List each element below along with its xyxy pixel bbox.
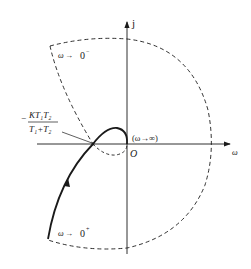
origin-label: O bbox=[130, 148, 137, 159]
left-arc-dashed bbox=[50, 46, 93, 144]
svg-text:T₁+T₂: T₁+T₂ bbox=[29, 124, 51, 134]
nyquist-diagram: j ω O (ω→∞) ω → 0 − ω → 0 + − KT₁T₂ T₁+T… bbox=[0, 0, 251, 269]
nyquist-curve-solid bbox=[48, 128, 127, 239]
real-axis-label: ω bbox=[232, 148, 238, 157]
crossing-point bbox=[92, 143, 95, 146]
imag-axis-label: j bbox=[131, 17, 135, 29]
svg-text:→: → bbox=[65, 229, 73, 238]
svg-text:0: 0 bbox=[80, 50, 85, 61]
omega-infinity-label: (ω→∞) bbox=[132, 133, 158, 143]
svg-text:ω: ω bbox=[58, 229, 64, 238]
svg-text:0: 0 bbox=[80, 228, 85, 239]
nyquist-curve-dashed bbox=[93, 144, 127, 155]
svg-text:+: + bbox=[86, 226, 90, 232]
omega-zero-plus-label: ω → 0 + bbox=[58, 226, 90, 239]
svg-text:ω: ω bbox=[58, 51, 64, 60]
omega-zero-minus-label: ω → 0 − bbox=[58, 48, 90, 61]
svg-text:→: → bbox=[65, 51, 73, 60]
svg-text:−: − bbox=[21, 113, 26, 123]
svg-text:−: − bbox=[86, 48, 90, 54]
svg-text:KT₁T₂: KT₁T₂ bbox=[28, 110, 51, 120]
crossing-leader-line bbox=[62, 132, 92, 143]
crossing-point-label: − KT₁T₂ T₁+T₂ bbox=[21, 110, 58, 134]
